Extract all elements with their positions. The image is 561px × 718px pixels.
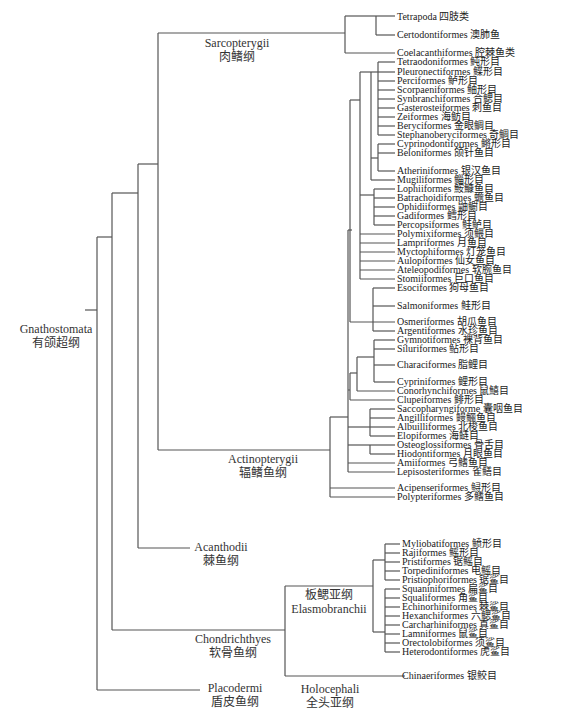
taxon-leaf: Characiformes 脂鲤目 <box>397 359 488 370</box>
taxon-leaf: Lepisosteriformes 雀鳝目 <box>397 466 502 477</box>
clade-line-2: Elasmobranchii <box>288 602 370 616</box>
clade-label-sarcopterygii: Sarcopterygii肉鳍纲 <box>192 36 282 64</box>
clade-line-2: 盾皮鱼纲 <box>200 695 270 709</box>
clade-line-2: 棘鱼纲 <box>186 554 256 568</box>
clade-line-1: Placodermi <box>200 681 270 695</box>
clade-line-2: 肉鳍纲 <box>192 50 282 64</box>
taxon-leaf: Polypteriformes 多鳍鱼目 <box>397 491 504 502</box>
taxon-leaf: Siluriformes 鲇形目 <box>397 343 480 354</box>
clade-line-1: 板鳃亚纲 <box>288 588 370 602</box>
taxon-leaf: Beloniformes 颌针鱼目 <box>397 147 494 158</box>
clade-line-1: Holocephali <box>290 682 370 696</box>
taxon-leaf: Tetrapoda 四肢类 <box>397 11 469 22</box>
taxon-leaf: Heterodontiformes 虎鲨目 <box>402 646 510 657</box>
clade-label-holocephali: Holocephali全头亚纲 <box>290 682 370 710</box>
clade-line-1: Acanthodii <box>186 540 256 554</box>
clade-label-elasmobranchii: 板鳃亚纲Elasmobranchii <box>288 588 370 616</box>
clade-line-2: 软骨鱼纲 <box>188 646 278 660</box>
clade-line-1: Gnathostomata <box>12 322 100 336</box>
clade-label-placodermi: Placodermi盾皮鱼纲 <box>200 681 270 709</box>
taxon-leaf: Chinaeriformes 银鲛目 <box>402 670 497 681</box>
clade-line-1: Actinopterygii <box>218 452 308 466</box>
clade-label-gnathostomata: Gnathostomata有颌超纲 <box>12 322 100 350</box>
clade-line-2: 辐鳍鱼纲 <box>218 466 308 480</box>
clade-label-chondrichthyes: Chondrichthyes软骨鱼纲 <box>188 632 278 660</box>
taxon-leaf: Esociformes 狗母鱼目 <box>397 282 490 293</box>
clade-line-1: Chondrichthyes <box>188 632 278 646</box>
taxon-leaf: Certodontiformes 澳肺鱼 <box>397 29 500 40</box>
clade-label-acanthodii: Acanthodii棘鱼纲 <box>186 540 256 568</box>
clade-line-1: Sarcopterygii <box>192 36 282 50</box>
clade-label-actinopterygii: Actinopterygii辐鳍鱼纲 <box>218 452 308 480</box>
clade-line-2: 有颌超纲 <box>12 336 100 350</box>
clade-line-2: 全头亚纲 <box>290 696 370 710</box>
taxon-leaf: Salmoniformes 鲑形目 <box>397 300 491 311</box>
